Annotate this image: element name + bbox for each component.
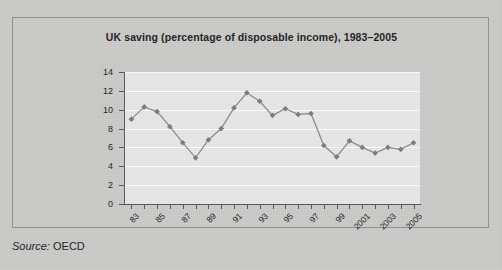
x-tick-label: 99: [333, 211, 347, 225]
x-tick-label: 2001: [352, 211, 372, 231]
x-tick-mark: [362, 205, 363, 209]
data-series: [125, 72, 420, 204]
y-tick-mark: [119, 185, 124, 186]
x-tick-mark: [349, 205, 350, 209]
y-tick-label: 2: [87, 180, 113, 190]
data-point-marker: [372, 150, 378, 156]
x-tick-label: 97: [307, 211, 321, 225]
source-value: OECD: [53, 240, 85, 252]
y-tick-mark: [119, 110, 124, 111]
x-tick-mark: [375, 205, 376, 209]
chart-title: UK saving (percentage of disposable inco…: [13, 31, 490, 43]
x-tick-mark: [414, 205, 415, 209]
y-tick-mark: [119, 147, 124, 148]
x-tick-label: 91: [230, 211, 244, 225]
x-tick-mark: [273, 205, 274, 209]
x-tick-mark: [260, 205, 261, 209]
x-tick-mark: [401, 205, 402, 209]
figure-frame: UK saving (percentage of disposable inco…: [12, 17, 489, 228]
data-point-marker: [295, 112, 301, 118]
y-tick-label: 10: [87, 105, 113, 115]
source-note: Source: OECD: [12, 240, 85, 252]
x-tick-mark: [221, 205, 222, 209]
y-tick-label: 6: [87, 142, 113, 152]
x-tick-mark: [208, 205, 209, 209]
x-tick-mark: [131, 205, 132, 209]
x-tick-mark: [388, 205, 389, 209]
y-tick-mark: [119, 204, 124, 205]
x-tick-label: 2003: [378, 211, 398, 231]
x-tick-label: 89: [205, 211, 219, 225]
data-point-marker: [283, 106, 289, 112]
x-tick-mark: [337, 205, 338, 209]
y-tick-label: 12: [87, 86, 113, 96]
x-tick-mark: [324, 205, 325, 209]
source-label: Source:: [12, 240, 50, 252]
x-tick-mark: [234, 205, 235, 209]
x-tick-mark: [196, 205, 197, 209]
y-tick-mark: [119, 166, 124, 167]
x-tick-mark: [285, 205, 286, 209]
y-tick-mark: [119, 72, 124, 73]
y-tick-label: 0: [87, 199, 113, 209]
y-tick-label: 14: [87, 67, 113, 77]
x-tick-mark: [183, 205, 184, 209]
x-tick-label: 2005: [403, 211, 423, 231]
x-tick-mark: [170, 205, 171, 209]
x-tick-mark: [157, 205, 158, 209]
x-tick-mark: [144, 205, 145, 209]
x-tick-label: 95: [282, 211, 296, 225]
x-tick-mark: [311, 205, 312, 209]
data-point-marker: [359, 145, 365, 151]
series-line: [131, 93, 413, 158]
x-tick-mark: [298, 205, 299, 209]
data-point-marker: [411, 140, 417, 146]
x-tick-label: 83: [128, 211, 142, 225]
data-point-marker: [385, 145, 391, 151]
y-tick-mark: [119, 91, 124, 92]
x-tick-mark: [247, 205, 248, 209]
x-tick-label: 87: [179, 211, 193, 225]
y-tick-label: 4: [87, 161, 113, 171]
x-tick-label: 85: [153, 211, 167, 225]
x-tick-label: 93: [256, 211, 270, 225]
data-point-marker: [308, 111, 314, 117]
y-tick-mark: [119, 129, 124, 130]
plot-wrapper: 02468101214 8385878991939597992001200320…: [113, 72, 420, 204]
y-tick-label: 8: [87, 124, 113, 134]
data-point-marker: [398, 146, 404, 152]
